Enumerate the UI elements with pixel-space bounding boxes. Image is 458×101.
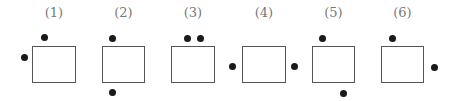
figure-label: (3) — [173, 5, 213, 21]
dot-marker — [291, 63, 298, 70]
dot-marker — [41, 34, 48, 41]
figure-label: (1) — [34, 5, 74, 21]
square-box — [102, 46, 145, 83]
square-box — [171, 46, 215, 83]
figure-label: (6) — [383, 5, 423, 21]
figure-label: (4) — [244, 5, 284, 21]
dot-marker — [431, 64, 438, 71]
dot-marker — [109, 35, 116, 42]
dot-marker — [229, 63, 236, 70]
dot-marker — [389, 35, 396, 42]
figure-label: (2) — [104, 5, 144, 21]
dot-marker — [184, 35, 191, 42]
square-box — [312, 46, 355, 83]
dot-marker — [109, 89, 116, 96]
dot-marker — [197, 35, 204, 42]
figure-label: (5) — [314, 5, 354, 21]
dot-marker — [21, 54, 28, 61]
square-box — [32, 46, 76, 83]
square-box — [381, 46, 424, 83]
square-box — [242, 46, 286, 83]
dot-marker — [340, 90, 347, 97]
dot-marker — [319, 35, 326, 42]
